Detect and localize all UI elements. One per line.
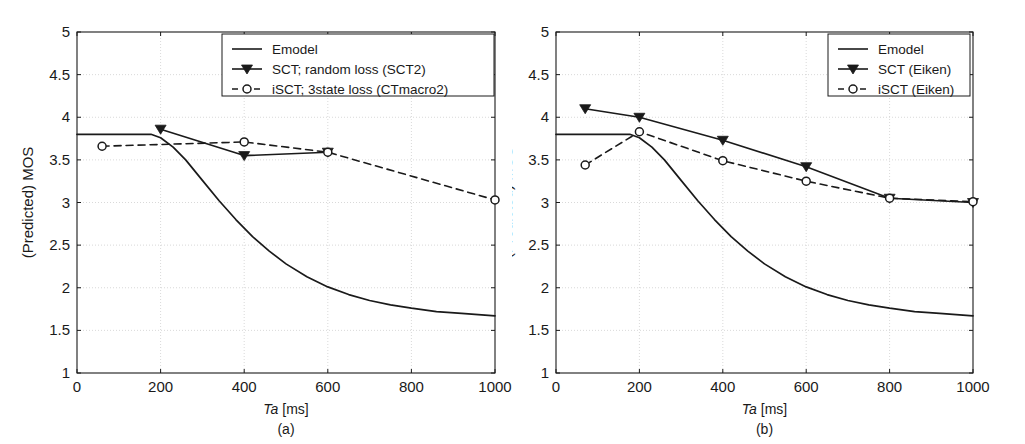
data-marker-circle	[240, 138, 248, 146]
data-marker-circle	[886, 194, 894, 202]
chart-panel-b: 11.522.533.544.5502004006008001000(Predi…	[512, 0, 1025, 444]
plot-a-svg: 11.522.533.544.5502004006008001000(Predi…	[0, 0, 512, 444]
legend-circle-icon	[849, 85, 857, 93]
x-tick-label: 800	[877, 378, 902, 395]
panel-caption: (a)	[277, 421, 294, 437]
y-tick-label: 1	[62, 364, 70, 381]
y-tick-label: 4.5	[528, 66, 549, 83]
data-marker-circle	[969, 198, 977, 206]
data-marker-circle	[324, 148, 332, 156]
y-axis-title: (Predicted) MOS	[19, 147, 36, 259]
data-marker-circle	[635, 128, 643, 136]
x-axis-title: Ta [ms]	[742, 401, 787, 417]
chart-panel-a: 11.522.533.544.5502004006008001000(Predi…	[0, 0, 512, 444]
figure-container: 11.522.533.544.5502004006008001000(Predi…	[0, 0, 1025, 444]
y-tick-label: 1	[541, 364, 549, 381]
series-sct-eiken-	[580, 105, 979, 208]
x-tick-label: 200	[148, 378, 173, 395]
y-tick-label: 2	[62, 279, 70, 296]
y-axis-title: (Predicted) MOS	[512, 147, 515, 259]
y-tick-label: 3	[62, 194, 70, 211]
y-tick-label: 3.5	[528, 151, 549, 168]
series-emodel	[77, 134, 495, 316]
panel-caption: (b)	[756, 421, 773, 437]
data-marker-circle	[719, 157, 727, 165]
y-tick-label: 4	[62, 108, 70, 125]
x-tick-label: 0	[73, 378, 81, 395]
y-tick-label: 5	[62, 23, 70, 40]
x-tick-label: 600	[794, 378, 819, 395]
legend-item-label: SCT (Eiken)	[878, 62, 951, 77]
legend-item-label: iSCT; 3state loss (CTmacro2)	[272, 82, 448, 97]
data-marker-circle	[98, 142, 106, 150]
x-tick-label: 1000	[478, 378, 511, 395]
x-tick-label: 400	[232, 378, 257, 395]
series-isct-3state-loss-ctmacro2-	[98, 138, 499, 204]
legend-item-label: SCT; random loss (SCT2)	[272, 62, 426, 77]
x-tick-label: 1000	[956, 378, 989, 395]
legend-circle-icon	[243, 85, 251, 93]
data-marker-triangle	[801, 163, 812, 172]
y-tick-label: 2.5	[49, 236, 70, 253]
data-marker-circle	[802, 177, 810, 185]
data-marker-circle	[581, 161, 589, 169]
x-tick-label: 600	[315, 378, 340, 395]
legend-item-label: Emodel	[272, 42, 318, 57]
y-tick-label: 1.5	[528, 321, 549, 338]
y-tick-label: 3	[541, 194, 549, 211]
y-tick-label: 3.5	[49, 151, 70, 168]
x-tick-label: 0	[552, 378, 560, 395]
x-axis-title: Ta [ms]	[263, 401, 308, 417]
x-tick-label: 200	[627, 378, 652, 395]
y-tick-label: 2	[541, 279, 549, 296]
plot-b-svg: 11.522.533.544.5502004006008001000(Predi…	[512, 0, 1025, 444]
y-tick-label: 4.5	[49, 66, 70, 83]
y-tick-label: 2.5	[528, 236, 549, 253]
x-tick-label: 400	[710, 378, 735, 395]
x-tick-label: 800	[399, 378, 424, 395]
data-marker-circle	[491, 196, 499, 204]
y-tick-label: 5	[541, 23, 549, 40]
legend-item-label: iSCT (Eiken)	[878, 82, 954, 97]
legend-item-label: Emodel	[878, 42, 924, 57]
series-emodel	[556, 134, 973, 316]
y-tick-label: 1.5	[49, 321, 70, 338]
y-tick-label: 4	[541, 108, 549, 125]
